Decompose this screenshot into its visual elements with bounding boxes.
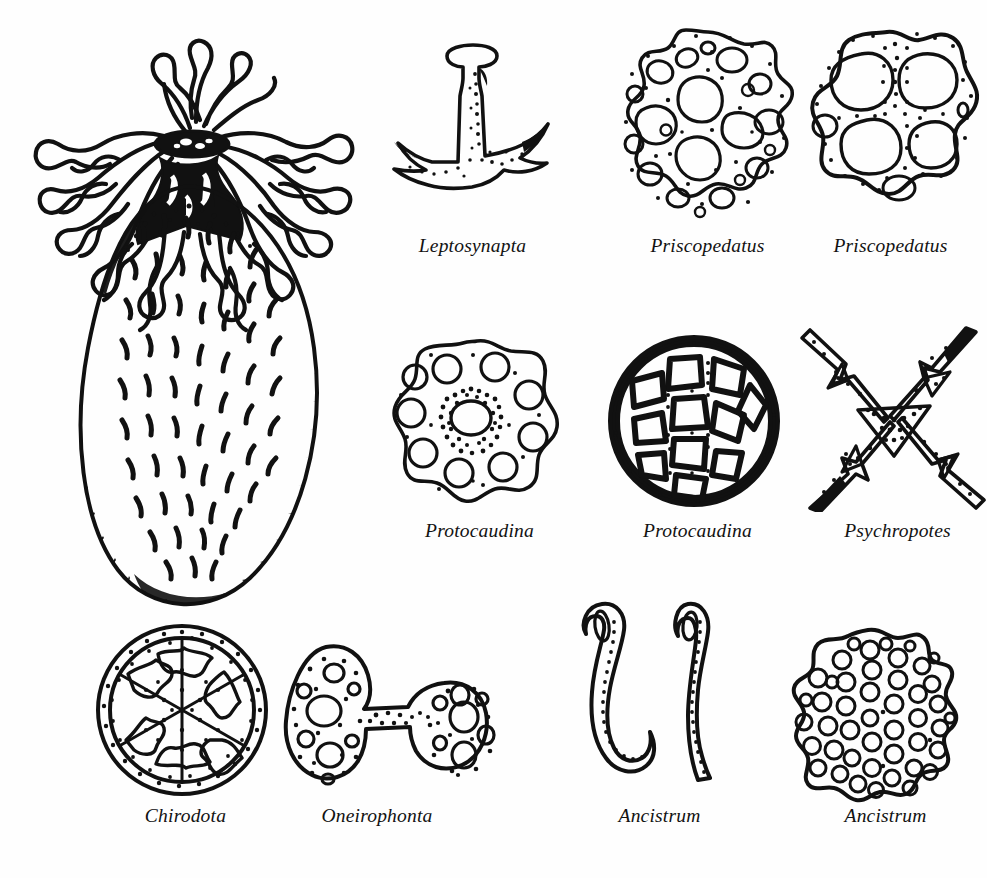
caption-protocaudina-1: Protocaudina	[372, 520, 587, 542]
caption-chirodota: Chirodota	[78, 805, 293, 827]
ossicle-protocaudina-1	[387, 333, 567, 508]
caption-psychropotes: Psychropotes	[790, 520, 987, 542]
caption-leptosynapta: Leptosynapta	[365, 235, 580, 257]
ossicle-ancistrum-plate	[782, 622, 972, 807]
caption-protocaudina-2: Protocaudina	[590, 520, 805, 542]
sea-cucumber-habitus	[14, 18, 374, 618]
ossicle-protocaudina-2	[604, 333, 789, 513]
ossicle-ancistrum-hooks	[558, 592, 743, 807]
ossicle-priscopedatus-2	[795, 18, 985, 218]
ossicle-oneirophonta	[268, 633, 503, 808]
illustration-plate: Leptosynapta	[0, 0, 987, 878]
caption-ancistrum-hooks: Ancistrum	[552, 805, 767, 827]
caption-oneirophonta: Oneirophonta	[262, 805, 492, 827]
caption-ancistrum-plate: Ancistrum	[778, 805, 987, 827]
ossicle-chirodota	[88, 618, 283, 808]
ossicle-priscopedatus-1	[612, 22, 802, 222]
ossicle-psychropotes	[798, 322, 987, 512]
caption-priscopedatus-2: Priscopedatus	[783, 235, 987, 257]
ossicle-leptosynapta	[372, 32, 572, 222]
